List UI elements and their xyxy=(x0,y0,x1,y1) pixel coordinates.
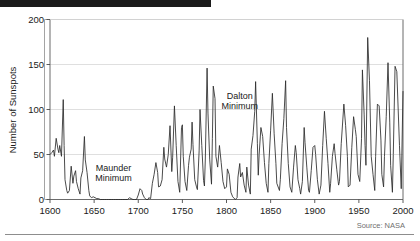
x-tick-label-1600: 1600 xyxy=(39,205,60,216)
annotation-maunder-minimum: MaunderMinimum xyxy=(95,163,132,183)
x-tick-label-1700: 1700 xyxy=(128,205,149,216)
y-axis-ticks: 050100150200 xyxy=(28,14,50,205)
y-axis-label: Number of Sunspots xyxy=(7,66,18,153)
y-tick-label-150: 150 xyxy=(28,59,44,70)
y-tick-label-50: 50 xyxy=(33,149,44,160)
y-tick-label-100: 100 xyxy=(28,104,44,115)
annotation-maunder-minimum-line2: Minimum xyxy=(95,173,132,183)
annotation-maunder-minimum-line1: Maunder xyxy=(96,163,132,173)
annotation-dalton-minimum: DaltonMinimum xyxy=(221,91,258,111)
x-tick-label-1650: 1650 xyxy=(84,205,105,216)
x-tick-label-1800: 1800 xyxy=(216,205,237,216)
figure-container: 160016501700175018001850190019502000 050… xyxy=(0,0,420,241)
x-tick-label-1850: 1850 xyxy=(260,205,281,216)
x-axis-ticks: 160016501700175018001850190019502000 xyxy=(39,200,413,216)
gridlines xyxy=(50,20,403,155)
x-tick-label-1750: 1750 xyxy=(172,205,193,216)
x-tick-label-2000: 2000 xyxy=(392,205,413,216)
x-tick-label-1950: 1950 xyxy=(348,205,369,216)
x-tick-label-1900: 1900 xyxy=(304,205,325,216)
annotations-layer: MaunderMinimumDaltonMinimum xyxy=(95,91,258,183)
annotation-dalton-minimum-line2: Minimum xyxy=(221,101,258,111)
source-note: Source: NASA xyxy=(357,221,405,230)
y-tick-label-0: 0 xyxy=(39,194,44,205)
sunspot-line-chart: 160016501700175018001850190019502000 050… xyxy=(0,0,420,241)
annotation-dalton-minimum-line1: Dalton xyxy=(227,91,253,101)
bottom-divider xyxy=(5,234,414,235)
y-tick-label-200: 200 xyxy=(28,14,44,25)
